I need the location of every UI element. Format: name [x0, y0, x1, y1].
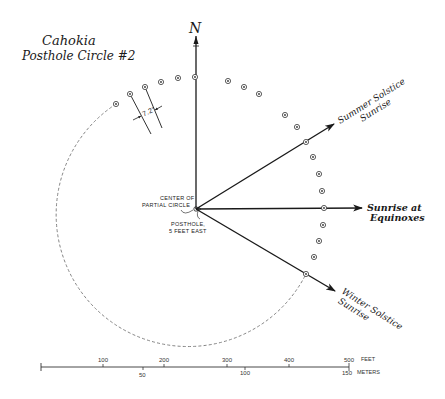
posthole-icon: [127, 91, 132, 96]
posthole-icon: [142, 84, 147, 89]
posthole-icon: [311, 254, 316, 259]
scale-bar: 100 200 300 400 500 FEET 50 100 150 METE…: [41, 356, 380, 378]
north-label: N: [188, 20, 202, 36]
center-label-1: CENTER OF: [160, 195, 195, 201]
summer-solstice-arrow: [196, 124, 334, 209]
scale-feet-200: 200: [159, 357, 170, 363]
posthole-icon: [241, 84, 246, 89]
postholes: [113, 74, 326, 276]
scale-meters-50: 50: [139, 372, 146, 378]
posthole-icon: [192, 74, 197, 79]
north-arrow-icon: N: [188, 20, 202, 209]
posthole-icon: [225, 78, 230, 83]
posthole-icon: [256, 91, 261, 96]
posthole-icon: [303, 139, 308, 144]
posthole-icon: [321, 205, 326, 210]
scale-feet-100: 100: [98, 357, 109, 363]
scale-meters-150: 150: [342, 370, 353, 376]
angle-label: 7.2°: [141, 105, 156, 117]
center-leader-line: [181, 210, 193, 213]
posthole-label-2: 5 FEET EAST: [169, 228, 207, 234]
scale-feet-500: 500: [344, 357, 355, 363]
title-line1: Cahokia: [42, 33, 96, 48]
summer-solstice-label: Summer Solstice Sunrise: [336, 76, 412, 134]
posthole-icon: [303, 271, 308, 276]
scale-feet-300: 300: [222, 357, 233, 363]
posthole-circle-diagram: Cahokia Posthole Circle #2 N 7.2° CENTER…: [0, 0, 445, 399]
posthole-icon: [316, 238, 321, 243]
center-label-2: PARTIAL CIRCLE: [142, 202, 190, 208]
posthole-icon: [175, 75, 180, 80]
equinox-label-2: Equinoxes: [369, 212, 425, 223]
posthole-icon: [113, 101, 118, 106]
posthole-icon: [282, 112, 287, 117]
posthole-icon: [310, 154, 315, 159]
posthole-icon: [158, 79, 163, 84]
posthole-icon: [316, 171, 321, 176]
winter-solstice-label: Winter Solstice Sunrise: [335, 286, 405, 340]
equinox-arrow: [196, 208, 362, 209]
scale-feet-unit: FEET: [361, 356, 376, 362]
angle-measure: 7.2°: [130, 87, 162, 134]
posthole-icon: [320, 222, 325, 227]
posthole-label-1: POSTHOLE,: [171, 221, 205, 227]
scale-meters-100: 100: [240, 370, 251, 376]
winter-solstice-arrow: [196, 209, 335, 291]
scale-meters-unit: METERS: [357, 369, 380, 375]
scale-feet-400: 400: [284, 357, 295, 363]
posthole-leader-line: [197, 211, 200, 219]
title-line2: Posthole Circle #2: [21, 49, 135, 63]
posthole-icon: [294, 124, 299, 129]
posthole-icon: [319, 188, 324, 193]
